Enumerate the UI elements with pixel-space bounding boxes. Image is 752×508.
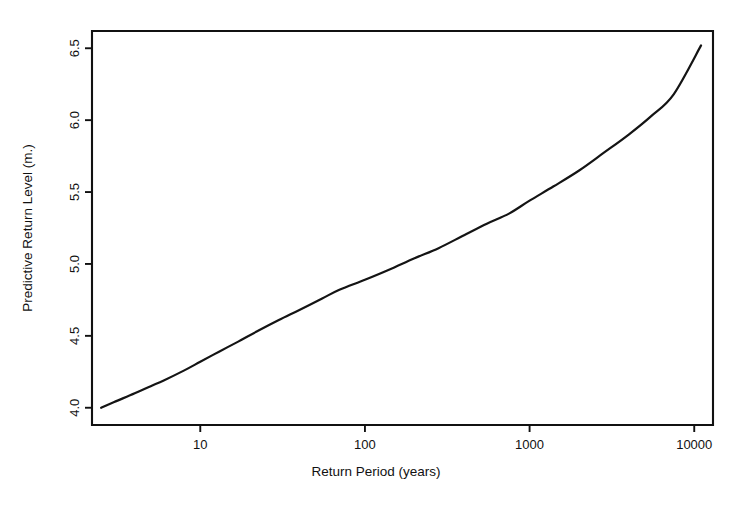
y-tick-label: 5.5 (67, 183, 82, 201)
x-tick-label: 10 (193, 437, 207, 452)
chart-figure: 4.04.55.05.56.06.5 10100100010000 Return… (0, 0, 752, 508)
y-axis-title: Predictive Return Level (m.) (20, 144, 35, 311)
plot-frame (92, 31, 713, 425)
y-tick-label: 5.0 (67, 255, 82, 273)
x-tick-label: 100 (354, 437, 376, 452)
y-tick-label: 4.5 (67, 327, 82, 345)
y-tick-label: 6.0 (67, 111, 82, 129)
x-tick-label: 10000 (676, 437, 712, 452)
x-axis-tick-labels: 10100100010000 (193, 437, 712, 452)
y-tick-label: 6.5 (67, 39, 82, 57)
x-tick-label: 1000 (515, 437, 544, 452)
return-level-curve (101, 45, 701, 407)
return-level-plot: 4.04.55.05.56.06.5 10100100010000 Return… (0, 0, 752, 508)
y-tick-label: 4.0 (67, 399, 82, 417)
y-axis-tick-labels: 4.04.55.05.56.06.5 (67, 39, 82, 417)
x-axis-title: Return Period (years) (311, 464, 440, 479)
